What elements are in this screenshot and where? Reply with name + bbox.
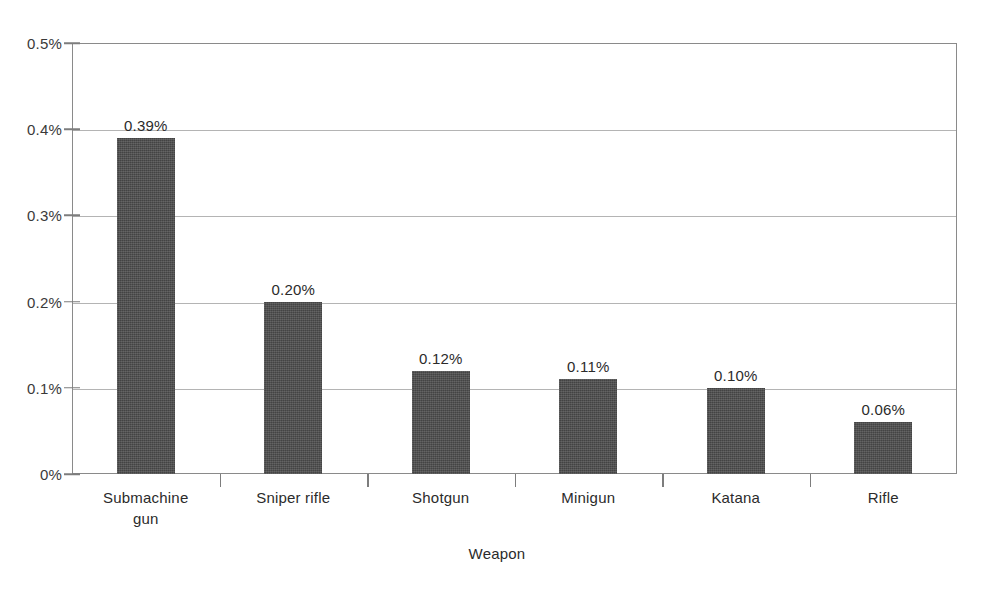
x-axis-title: Weapon xyxy=(0,545,994,562)
bar[interactable] xyxy=(854,422,912,474)
bar-value-label: 0.12% xyxy=(419,350,463,367)
bar[interactable] xyxy=(412,371,470,474)
bar-group[interactable]: 0.20% xyxy=(264,43,322,474)
x-axis-tick-mark xyxy=(662,474,664,487)
x-axis-category-label: Submachine gun xyxy=(72,487,220,529)
y-axis-tick-label: 0.5% xyxy=(27,35,62,52)
bar-group[interactable]: 0.12% xyxy=(412,43,470,474)
y-axis-tick-label: 0.1% xyxy=(27,379,62,396)
y-axis-tick-label: 0% xyxy=(40,466,62,483)
bar-series: 0.39%0.20%0.12%0.11%0.10%0.06% xyxy=(72,43,957,474)
x-axis-tick-mark xyxy=(220,474,222,487)
x-axis-category-label: Sniper rifle xyxy=(220,487,368,508)
x-axis-tick-mark xyxy=(515,474,517,487)
bar-group[interactable]: 0.06% xyxy=(854,43,912,474)
bar-chart: 0%0.1%0.2%0.3%0.4%0.5% 0.39%0.20%0.12%0.… xyxy=(0,0,994,593)
bar-value-label: 0.39% xyxy=(124,117,168,134)
x-axis-tick-mark xyxy=(810,474,812,487)
y-axis-tick-label: 0.2% xyxy=(27,293,62,310)
bar-value-label: 0.10% xyxy=(714,367,758,384)
bar-value-label: 0.06% xyxy=(861,401,905,418)
x-axis-category-label: Katana xyxy=(662,487,810,508)
bar-value-label: 0.20% xyxy=(271,281,315,298)
y-axis-tick-label: 0.4% xyxy=(27,121,62,138)
x-axis-category-label: Rifle xyxy=(810,487,958,508)
y-axis-tick-label: 0.3% xyxy=(27,207,62,224)
bar[interactable] xyxy=(559,379,617,474)
bar-group[interactable]: 0.39% xyxy=(117,43,175,474)
bar[interactable] xyxy=(707,388,765,474)
x-axis-tick-mark xyxy=(367,474,369,487)
bar-value-label: 0.11% xyxy=(567,358,609,375)
x-axis-category-label: Minigun xyxy=(515,487,663,508)
bar-group[interactable]: 0.11% xyxy=(559,43,617,474)
bar-group[interactable]: 0.10% xyxy=(707,43,765,474)
bar[interactable] xyxy=(117,138,175,474)
bar[interactable] xyxy=(264,302,322,474)
x-axis-category-label: Shotgun xyxy=(367,487,515,508)
